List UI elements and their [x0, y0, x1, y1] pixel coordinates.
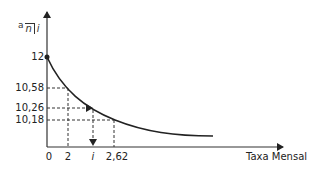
x-tick-2-62: 2,62 — [106, 152, 128, 162]
x-axis-title: Taxa Mensal — [246, 152, 307, 162]
start-point — [45, 55, 50, 60]
y-tick-10-58: 10,58 — [4, 83, 44, 93]
dashed-guides — [47, 88, 114, 147]
y-tick-10-18: 10,18 — [4, 115, 44, 125]
arrow-down-icon — [89, 139, 97, 146]
chart — [0, 0, 318, 173]
y-label-n: n — [25, 23, 35, 34]
y-axis-label: ani — [18, 19, 40, 30]
y-tick-10-26: 10,26 — [4, 103, 44, 113]
y-label-i: i — [37, 23, 40, 34]
x-tick-i: i — [92, 152, 95, 162]
y-tick-12: 12 — [4, 52, 44, 62]
x-tick-2: 2 — [65, 152, 71, 162]
x-tick-0: 0 — [46, 152, 52, 162]
curve — [47, 57, 213, 136]
y-label-a: a — [18, 20, 24, 30]
